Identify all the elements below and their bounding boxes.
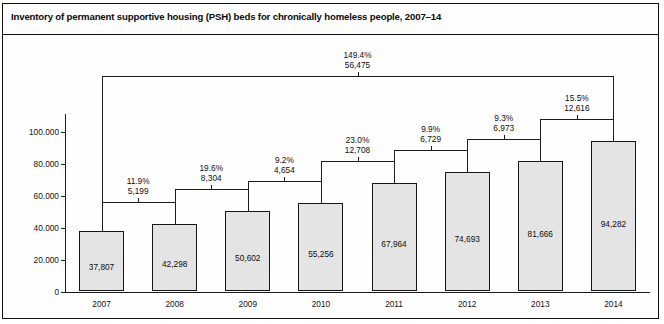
bar-value-label-2014: 94,282 (591, 219, 636, 229)
x-axis (65, 292, 650, 293)
change-2012-2013-percent-label: 9.3% (459, 113, 549, 123)
x-axis-label-2007: 2007 (72, 299, 132, 309)
change-2008-2009-bracket-drop-1 (175, 189, 176, 224)
change-2007-2008-bracket-tick (138, 198, 139, 202)
change-2009-2010-bracket-drop-1 (248, 181, 249, 210)
change-2011-2012-bracket-drop-1 (394, 150, 395, 183)
x-axis-label-2014: 2014 (583, 299, 643, 309)
y-tick-mark (61, 260, 65, 261)
bar-2009[interactable] (225, 211, 270, 292)
change-2012-2013-annotation: 9.3%6,973 (459, 113, 549, 133)
change-2013-2014-bracket-tick (577, 115, 578, 119)
change-2010-2011-bracket-tick (358, 157, 359, 161)
bar-2007[interactable] (79, 231, 124, 291)
change-2013-2014-percent-label: 15.5% (532, 93, 622, 103)
bar-value-label-2013: 81,666 (518, 229, 563, 239)
x-axis-label-2008: 2008 (145, 299, 205, 309)
change-2009-2010-annotation: 9.2%4,654 (239, 155, 329, 175)
change-2013-2014-annotation: 15.5%12,616 (532, 93, 622, 113)
x-axis-label-2009: 2009 (218, 299, 278, 309)
y-axis-tick-label: 80.000 (3, 159, 59, 169)
change-2013-2014-change-label: 12,616 (532, 103, 622, 113)
change-2007-2008-change-label: 5,199 (93, 186, 183, 196)
bar-value-label-2007: 37,807 (79, 262, 124, 272)
y-axis-tick-label: 60.000 (3, 191, 59, 201)
change-2013-2014-bracket-drop-1 (540, 119, 541, 161)
bar-value-label-2008: 42,298 (152, 259, 197, 269)
overall-change-bracket-line (102, 76, 614, 77)
bar-value-label-2011: 67,964 (372, 239, 417, 249)
y-tick-mark (61, 164, 65, 165)
y-tick-mark (61, 132, 65, 133)
x-axis-label-2013: 2013 (510, 299, 570, 309)
change-2012-2013-bracket-drop-1 (467, 139, 468, 172)
bar-2010[interactable] (298, 203, 343, 291)
overall-change-bracket-drop-2 (613, 76, 614, 141)
change-2008-2009-bracket-tick (211, 185, 212, 189)
x-axis-label-2010: 2010 (291, 299, 351, 309)
y-axis-tick-label: 20.000 (3, 255, 59, 265)
overall-change-bracket-tick (358, 72, 359, 76)
change-2009-2010-bracket-line (248, 181, 321, 182)
bar-2008[interactable] (152, 224, 197, 292)
change-2008-2009-bracket-line (175, 189, 248, 190)
bar-2011[interactable] (372, 183, 417, 292)
y-tick-mark (61, 292, 65, 293)
y-tick-mark (61, 228, 65, 229)
change-2011-2012-bracket-line (394, 150, 467, 151)
change-2007-2008-bracket-line (102, 202, 175, 203)
x-axis-label-2012: 2012 (437, 299, 497, 309)
change-2011-2012-bracket-tick (431, 146, 432, 150)
overall-change-percent-label: 149.4% (313, 50, 403, 60)
bar-2014[interactable] (591, 141, 636, 292)
change-2010-2011-bracket-line (321, 161, 394, 162)
y-axis-tick-label: 0 (3, 287, 59, 297)
y-tick-mark (61, 196, 65, 197)
change-2009-2010-change-label: 4,654 (239, 165, 329, 175)
change-2012-2013-change-label: 6,973 (459, 123, 549, 133)
change-2010-2011-change-label: 12,708 (313, 145, 403, 155)
change-2010-2011-bracket-drop-1 (321, 161, 322, 203)
chart-plot-area: 020.00040.00060.00080.000100.000 37,8074… (3, 4, 660, 320)
x-axis-label-2011: 2011 (364, 299, 424, 309)
overall-change-annotation: 149.4%56,475 (313, 50, 403, 70)
change-2012-2013-bracket-line (467, 139, 540, 140)
change-2009-2010-percent-label: 9.2% (239, 155, 329, 165)
y-axis-tick-label: 100.000 (3, 127, 59, 137)
bar-value-label-2009: 50,602 (225, 253, 270, 263)
figure-frame: Inventory of permanent supportive housin… (2, 3, 659, 319)
y-axis (65, 114, 66, 292)
bar-2012[interactable] (445, 172, 490, 292)
change-2009-2010-bracket-tick (284, 177, 285, 181)
change-2012-2013-bracket-tick (504, 135, 505, 139)
overall-change-bracket-drop-1 (102, 76, 103, 231)
overall-change-change-label: 56,475 (313, 60, 403, 70)
bar-value-label-2010: 55,256 (298, 249, 343, 259)
bar-value-label-2012: 74,693 (445, 234, 490, 244)
change-2013-2014-bracket-line (540, 119, 613, 120)
change-2011-2012-change-label: 6,729 (386, 134, 476, 144)
bar-2013[interactable] (518, 161, 563, 292)
y-axis-tick-label: 40.000 (3, 223, 59, 233)
